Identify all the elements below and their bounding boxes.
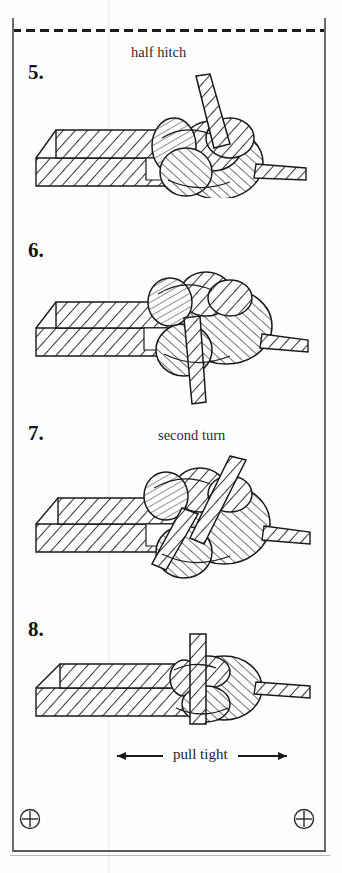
knot-diagram-step-5 <box>34 68 314 198</box>
registration-mark-bottom-left <box>19 808 41 830</box>
page-border-right <box>324 18 326 852</box>
knot-diagram-step-8 <box>34 630 314 740</box>
caption-second-turn: second turn <box>158 427 225 444</box>
knot-diagram-step-7 <box>34 448 314 588</box>
page-border-bottom <box>12 850 326 852</box>
caption-half-hitch: half hitch <box>131 44 186 61</box>
step-number-7: 7. <box>28 421 44 446</box>
page-border-left <box>12 18 14 852</box>
registration-mark-bottom-right <box>293 808 315 830</box>
cut-here-dashed-rule <box>12 18 326 21</box>
page-border-bottom-shadow <box>10 855 330 856</box>
knot-diagram-step-6 <box>34 258 314 408</box>
instruction-page: 5. half hitch <box>0 0 342 873</box>
pull-tight-label: pull tight <box>173 746 228 763</box>
pull-tight-annotation: pull tight <box>105 744 300 770</box>
